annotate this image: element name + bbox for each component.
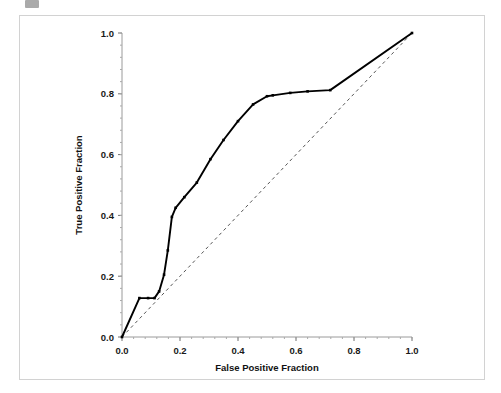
y-tick-label: 0.0 — [101, 332, 114, 343]
roc-data-point — [167, 249, 170, 252]
y-tick-label: 0.2 — [101, 271, 114, 282]
roc-data-point — [329, 89, 332, 92]
x-tick-label: 0.0 — [115, 345, 128, 356]
x-tick-label: 0.4 — [231, 345, 245, 356]
roc-data-point — [266, 95, 269, 98]
x-axis-title: False Positive Fraction — [215, 362, 319, 373]
y-axis-tick-labels: 0.00.20.40.60.81.0 — [101, 28, 115, 343]
x-tick-label: 0.6 — [289, 345, 302, 356]
roc-data-point — [174, 207, 177, 210]
y-axis-ticks — [118, 33, 122, 337]
page-scan-artifact — [25, 0, 39, 8]
roc-data-point — [183, 196, 186, 199]
roc-data-point — [272, 94, 275, 97]
roc-data-point — [252, 103, 255, 106]
roc-data-point — [196, 181, 199, 184]
y-tick-label: 0.4 — [101, 210, 115, 221]
x-tick-label: 0.2 — [173, 345, 186, 356]
y-axis-title: True Positive Fraction — [73, 135, 84, 234]
roc-data-point — [163, 273, 166, 276]
roc-curve-line — [122, 33, 412, 337]
roc-data-point — [222, 139, 225, 142]
x-tick-label: 1.0 — [405, 345, 418, 356]
roc-data-point — [411, 32, 414, 35]
roc-data-point — [121, 336, 124, 339]
x-axis-ticks — [122, 337, 412, 341]
roc-data-point — [158, 290, 161, 293]
y-tick-label: 1.0 — [101, 28, 114, 39]
roc-data-point — [237, 120, 240, 123]
roc-data-point — [171, 216, 174, 219]
roc-data-point — [306, 90, 309, 93]
axis-lines — [122, 33, 412, 337]
y-tick-label: 0.6 — [101, 149, 114, 160]
roc-data-point — [289, 92, 292, 95]
roc-plot: 0.00.20.40.60.81.0 0.00.20.40.60.81.0 Fa… — [20, 16, 484, 379]
roc-data-point — [147, 297, 150, 300]
chance-reference-line — [122, 33, 412, 337]
roc-data-point — [153, 297, 156, 300]
roc-data-point — [209, 158, 212, 161]
x-tick-label: 0.8 — [347, 345, 360, 356]
y-tick-label: 0.8 — [101, 88, 114, 99]
x-axis-tick-labels: 0.00.20.40.60.81.0 — [115, 345, 418, 356]
figure-frame: 0.00.20.40.60.81.0 0.00.20.40.60.81.0 Fa… — [19, 15, 485, 380]
roc-data-point — [138, 297, 141, 300]
